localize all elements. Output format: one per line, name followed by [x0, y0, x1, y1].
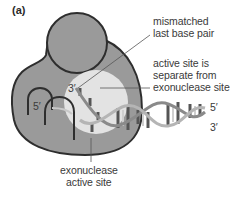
strand-end-3prime-right: 3′: [210, 121, 218, 133]
active-site-label-line1: active site is: [153, 58, 209, 70]
strand-end-3prime-left: 3′: [68, 82, 76, 94]
strand-end-5prime-left: 5′: [33, 100, 41, 112]
thumb-domain: [47, 13, 107, 73]
strand-end-5prime-right: 5′: [210, 101, 218, 113]
exonuclease-label-line1: exonuclease: [60, 165, 118, 177]
mismatched-label-line1: mismatched: [153, 16, 209, 28]
mismatched-label-line2: last base pair: [153, 28, 214, 40]
active-site-label-line3: exonuclease site: [153, 82, 230, 94]
active-site-label-line2: separate from: [153, 70, 216, 82]
exonuclease-label-line2: active site: [66, 177, 112, 189]
